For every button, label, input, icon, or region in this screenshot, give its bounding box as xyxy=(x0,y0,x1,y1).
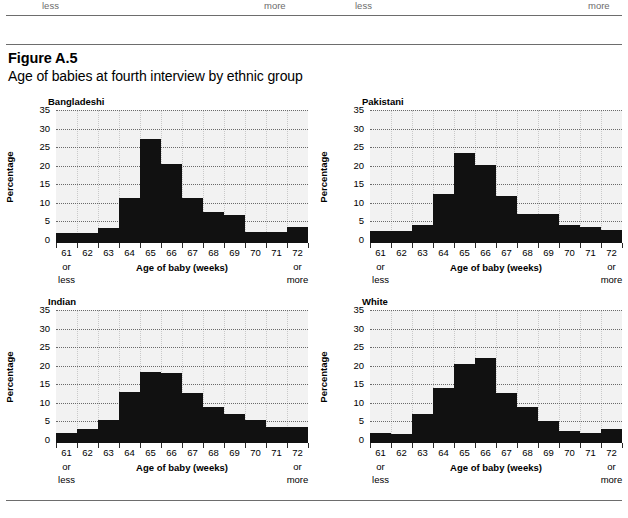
y-tick-label: 0 xyxy=(344,235,364,245)
histogram-bar xyxy=(433,388,454,440)
y-tick-label: 5 xyxy=(30,416,50,426)
plot-area xyxy=(56,110,308,240)
x-tick-label: 71 xyxy=(268,448,286,458)
histogram-bar xyxy=(391,231,412,240)
gridline xyxy=(370,166,622,167)
histogram-bar xyxy=(77,429,98,440)
gridline xyxy=(370,184,622,185)
y-tick-label: 10 xyxy=(344,398,364,408)
x-axis-label: Age of baby (weeks) xyxy=(56,462,308,473)
x-tick-label: 67 xyxy=(184,248,202,258)
x-tick-label: 69 xyxy=(226,248,244,258)
x-tick-label: 68 xyxy=(519,448,537,458)
histogram-bar xyxy=(140,372,161,440)
x-tick-label: 64 xyxy=(121,248,139,258)
y-axis-label: Percentage xyxy=(318,112,330,242)
gridline xyxy=(56,347,308,348)
chart-title: Bangladeshi xyxy=(48,96,105,107)
y-tick-label: 25 xyxy=(344,142,364,152)
y-tick-label: 35 xyxy=(344,105,364,115)
x-tick-label: 68 xyxy=(519,248,537,258)
gridline xyxy=(370,384,622,385)
histogram-bar xyxy=(77,233,98,240)
y-tick-label: 0 xyxy=(344,435,364,445)
y-tick-label: 35 xyxy=(344,305,364,315)
histogram-bar xyxy=(203,407,224,440)
x-tick-label: 65 xyxy=(456,448,474,458)
y-axis-label: Percentage xyxy=(4,112,16,242)
histogram-bar xyxy=(224,215,245,240)
x-tick-mark xyxy=(308,243,309,248)
y-tick-label: 5 xyxy=(344,216,364,226)
histogram-bar xyxy=(538,214,559,240)
y-tick-label: 25 xyxy=(30,142,50,152)
y-tick-label: 20 xyxy=(30,361,50,371)
histogram-bar xyxy=(517,214,538,240)
y-tick-label: 10 xyxy=(30,398,50,408)
y-tick-label: 20 xyxy=(30,161,50,171)
histogram-bar xyxy=(182,393,203,440)
x-tick-label: 67 xyxy=(184,448,202,458)
x-tick-mark xyxy=(622,243,623,248)
histogram-bar xyxy=(140,139,161,240)
histogram-bar xyxy=(287,427,308,440)
histogram-bar xyxy=(245,420,266,440)
histogram-bar xyxy=(370,433,391,440)
x-tick-label: 71 xyxy=(582,448,600,458)
chart-title: White xyxy=(362,296,388,307)
gridline xyxy=(56,310,308,311)
histogram-bar xyxy=(496,196,517,240)
gridline xyxy=(370,147,622,148)
x-axis-label: Age of baby (weeks) xyxy=(370,462,622,473)
gridline xyxy=(56,184,308,185)
x-tick-label: 72 xyxy=(603,248,621,258)
histogram-bar xyxy=(266,232,287,240)
x-tick-label: 72 xyxy=(289,448,307,458)
histogram-bar xyxy=(475,165,496,240)
histogram-bar xyxy=(559,431,580,440)
x-tick-label: 70 xyxy=(247,248,265,258)
histogram-bar xyxy=(287,227,308,240)
plot-area xyxy=(370,310,622,440)
y-tick-label: 5 xyxy=(30,216,50,226)
plot-area xyxy=(56,310,308,440)
x-range-suffix-high: more xyxy=(286,475,310,485)
previous-figure-bleed: less more less more xyxy=(0,0,628,22)
x-tick-label: 70 xyxy=(561,448,579,458)
histogram-bar xyxy=(517,407,538,440)
plot-area xyxy=(370,110,622,240)
gridline xyxy=(370,110,622,111)
histogram-bar xyxy=(224,414,245,440)
y-tick-label: 25 xyxy=(30,342,50,352)
y-axis-label: Percentage xyxy=(318,312,330,442)
histogram-bar xyxy=(454,364,475,440)
x-tick-label: 70 xyxy=(561,248,579,258)
x-range-suffix-low: less xyxy=(369,275,393,285)
bleed-label: more xyxy=(264,0,286,11)
y-tick-label: 25 xyxy=(344,342,364,352)
gridline xyxy=(56,129,308,130)
x-tick-label: 63 xyxy=(100,448,118,458)
y-tick-label: 5 xyxy=(344,416,364,426)
gridline xyxy=(56,110,308,111)
histogram-bar xyxy=(182,198,203,240)
gridline xyxy=(370,347,622,348)
y-tick-label: 10 xyxy=(344,198,364,208)
histogram-bar xyxy=(601,230,622,240)
y-tick-label: 30 xyxy=(30,324,50,334)
chart-panel-pakistani: PakistaniPercentage051015202530356162636… xyxy=(322,96,628,281)
x-tick-label: 70 xyxy=(247,448,265,458)
chart-title: Pakistani xyxy=(362,96,404,107)
x-tick-label: 61 xyxy=(58,448,76,458)
x-tick-label: 71 xyxy=(268,248,286,258)
x-range-suffix-high: more xyxy=(600,475,624,485)
histogram-bar xyxy=(119,392,140,440)
x-tick-label: 63 xyxy=(414,448,432,458)
x-range-suffix-high: more xyxy=(600,275,624,285)
x-tick-mark xyxy=(308,443,309,448)
y-tick-label: 35 xyxy=(30,305,50,315)
y-tick-label: 30 xyxy=(344,124,364,134)
x-range-suffix-low: less xyxy=(369,475,393,485)
x-axis-label: Age of baby (weeks) xyxy=(370,262,622,273)
x-tick-label: 67 xyxy=(498,248,516,258)
